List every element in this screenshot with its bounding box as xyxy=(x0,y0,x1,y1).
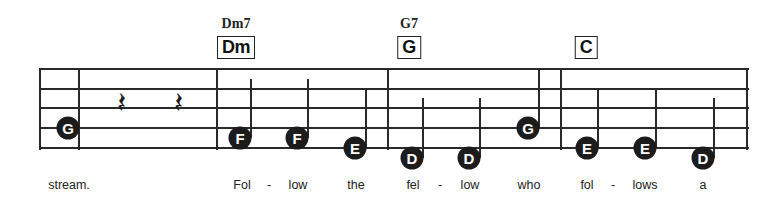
staff-line xyxy=(40,107,749,109)
note-head: F xyxy=(286,127,309,150)
note-stem xyxy=(713,98,715,158)
lyric-syllable: - xyxy=(438,178,442,192)
quarter-rest-icon: 𝄽 xyxy=(174,88,183,118)
note-head: D xyxy=(692,147,715,170)
chord-name: Dm7 xyxy=(222,16,251,32)
note-stem xyxy=(422,98,424,158)
lyric-syllable: a xyxy=(700,178,707,192)
note-head: F xyxy=(229,127,252,150)
lyric-syllable: Fol xyxy=(233,178,250,192)
lyric-syllable: - xyxy=(611,178,615,192)
bar-line xyxy=(39,68,41,150)
lyric-syllable: stream. xyxy=(48,178,90,192)
note-stem xyxy=(250,79,252,138)
note-stem xyxy=(655,89,657,148)
lyric-syllable: the xyxy=(347,178,364,192)
note-stem xyxy=(365,89,367,148)
lyric-syllable: low xyxy=(461,178,480,192)
note-head: E xyxy=(634,137,657,160)
chord-box: Dm xyxy=(217,36,255,59)
staff-line xyxy=(40,68,749,70)
chord-box: C xyxy=(575,36,598,59)
note-stem xyxy=(597,89,599,148)
note-head: G xyxy=(517,117,540,140)
chord-name: G7 xyxy=(400,16,418,32)
staff-line xyxy=(40,88,749,90)
quarter-rest-icon: 𝄽 xyxy=(117,88,126,118)
lyric-syllable: - xyxy=(267,178,271,192)
lyric-syllable: fol xyxy=(580,178,593,192)
bar-line xyxy=(387,68,389,150)
staff-line xyxy=(40,127,749,129)
note-head: D xyxy=(401,147,424,170)
note-head: E xyxy=(344,137,367,160)
lyric-syllable: fel xyxy=(406,178,419,192)
note-stem xyxy=(307,79,309,138)
chord-box: G xyxy=(397,36,421,59)
bar-line xyxy=(216,68,218,150)
note-head: D xyxy=(458,147,481,170)
lyric-syllable: low xyxy=(289,178,308,192)
note-stem xyxy=(479,98,481,158)
bar-line xyxy=(78,68,80,150)
bar-line xyxy=(746,68,748,150)
bar-line xyxy=(560,68,562,150)
note-head: G xyxy=(57,117,80,140)
lyric-syllable: lows xyxy=(632,178,657,192)
lyric-syllable: who xyxy=(518,178,541,192)
note-stem xyxy=(538,69,540,128)
note-head: E xyxy=(576,137,599,160)
